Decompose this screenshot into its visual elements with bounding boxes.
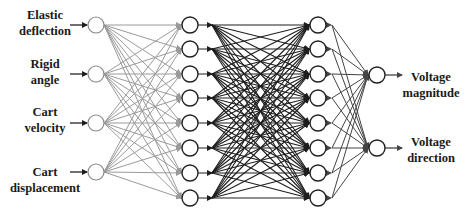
- input-label-cart-velocity: Cart velocity: [14, 104, 76, 136]
- connection-edge: [104, 49, 181, 172]
- hidden-layer-1-neuron: [182, 165, 198, 181]
- connection-edge: [332, 75, 368, 123]
- hidden-layer-1-neuron: [182, 140, 198, 156]
- output-layer-neuron: [369, 67, 385, 83]
- hidden-layer-2-neuron: [310, 165, 326, 181]
- arrowhead: [326, 170, 332, 176]
- input-layer-neuron: [88, 17, 104, 33]
- hidden-layer-2-neuron: [310, 90, 326, 106]
- connection-edge: [104, 172, 181, 198]
- hidden-layer-2-neuron: [310, 41, 326, 57]
- output-layer-neuron: [369, 140, 385, 156]
- connection-edge: [104, 148, 181, 172]
- arrowhead: [326, 71, 332, 77]
- hidden-layer-2-neuron: [310, 115, 326, 131]
- input-layer-neuron: [88, 115, 104, 131]
- input-to-hidden1-connections: [104, 25, 181, 198]
- input-layer-neuron: [88, 66, 104, 82]
- hidden-layer-1-neuron: [182, 115, 198, 131]
- hidden-layer-2-neuron: [310, 140, 326, 156]
- output-label-voltage-magnitude: Voltage magnitude: [396, 69, 466, 101]
- arrowhead: [326, 145, 332, 151]
- output-label-voltage-direction: Voltage direction: [396, 134, 466, 166]
- arrowhead: [326, 95, 332, 101]
- connection-edge: [332, 49, 368, 75]
- hidden-layer-1-neuron: [182, 90, 198, 106]
- input-label-elastic-deflection: Elastic deflection: [14, 7, 76, 39]
- input-label-cart-displacement: Cart displacement: [6, 164, 84, 196]
- hidden-layer-2-neuron: [310, 17, 326, 33]
- hidden-layer-1-neuron: [182, 41, 198, 57]
- arrowhead: [326, 120, 332, 126]
- arrowhead: [326, 46, 332, 52]
- hidden2-to-output-connections: [326, 22, 368, 201]
- input-layer-neuron: [88, 164, 104, 180]
- hidden1-to-hidden2-connections: [198, 25, 309, 198]
- connection-edge: [332, 148, 368, 173]
- connection-edge: [332, 25, 368, 75]
- connection-edge: [332, 75, 368, 173]
- connection-edge: [332, 74, 368, 75]
- arrowhead: [326, 22, 332, 28]
- connection-edge: [104, 49, 181, 74]
- connection-edge: [104, 25, 181, 49]
- hidden-layer-2-neuron: [310, 190, 326, 206]
- hidden-layer-1-neuron: [182, 66, 198, 82]
- hidden-layer-1-neuron: [182, 190, 198, 206]
- connection-edge: [332, 148, 368, 198]
- hidden-layer-2-neuron: [310, 66, 326, 82]
- arrowhead: [326, 195, 332, 201]
- input-label-rigid-angle: Rigid angle: [16, 56, 74, 88]
- hidden-layer-1-neuron: [182, 17, 198, 33]
